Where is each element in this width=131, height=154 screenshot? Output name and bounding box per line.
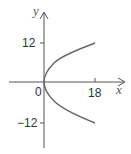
y-tick-label-neg12: −12 [17, 116, 38, 130]
x-tick-label-18: 18 [88, 86, 102, 100]
y-tick-label-12: 12 [22, 36, 36, 50]
origin-label: 0 [35, 85, 42, 99]
y-axis-label: y [31, 3, 39, 18]
parabola-curve [44, 43, 95, 123]
parabola-chart: 12 −12 18 0 x y [0, 0, 131, 154]
x-axis-label: x [115, 82, 122, 97]
